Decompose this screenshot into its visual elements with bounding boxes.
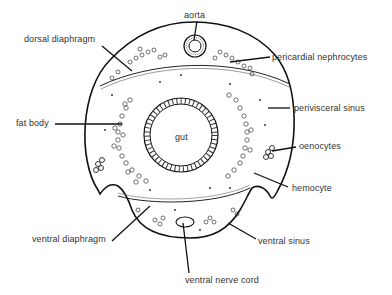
label-perivisceral-sinus: perivisceral sinus bbox=[294, 103, 365, 113]
label-dorsal-diaphragm: dorsal diaphragm bbox=[24, 34, 95, 44]
ventral-nerve-cord-shape bbox=[176, 217, 194, 227]
ventral-diaphragm-line bbox=[118, 188, 250, 202]
label-ventral-nerve-cord: ventral nerve cord bbox=[185, 275, 259, 285]
dorsal-diaphragm-line-2 bbox=[101, 68, 289, 89]
label-ventral-sinus: ventral sinus bbox=[258, 236, 310, 246]
label-ventral-diaphragm: ventral diaphragm bbox=[32, 234, 106, 244]
label-pericardial-nephrocytes: pericardial nephrocytes bbox=[272, 52, 367, 62]
label-aorta: aorta bbox=[184, 10, 205, 20]
label-hemocyte: hemocyte bbox=[292, 183, 332, 193]
pericardial-nephrocytes-cells bbox=[110, 47, 254, 80]
label-gut: gut bbox=[175, 132, 188, 142]
label-fat-body: fat body bbox=[16, 118, 49, 128]
ventral-diaphragm-line-2 bbox=[118, 185, 250, 199]
label-oenocytes: oenocytes bbox=[299, 141, 341, 151]
